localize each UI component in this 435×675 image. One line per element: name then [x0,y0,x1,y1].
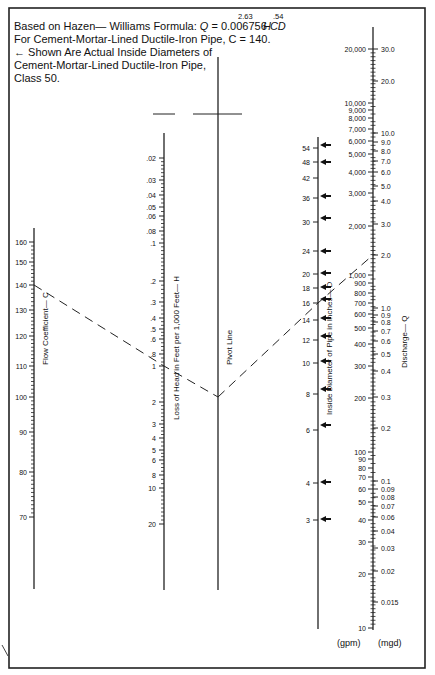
q-mgd-tick-label: 20.0 [381,78,395,85]
q-gpm-tick-label: 80 [358,465,366,472]
h-tick-label: 10 [148,485,156,492]
c-tick-label: 150 [15,259,27,266]
c-tick-label: 130 [15,307,27,314]
arrow-left-icon [320,270,331,276]
h-axis-title: Loss of Head in Feet per 1,000 Feet— H [172,276,181,420]
q-mgd-tick-label: 0.02 [381,568,395,575]
h-tick-label: 5 [152,447,156,454]
q-gpm-tick-label: 60 [358,486,366,493]
q-mgd-tick-label: 0.4 [381,368,391,375]
q-mgd-tick-label: 3.0 [381,221,391,228]
q-mgd-tick-label: 0.06 [381,514,395,521]
q-gpm-tick-label: 600 [354,311,366,318]
d-tick-label: 6 [306,427,310,434]
example-dashed-line-c-to-pivot [34,285,218,397]
formula-line: Based on Hazen— Williams Formula: Q = 0.… [14,20,286,33]
q-mgd-tick-label: 0.015 [381,599,399,606]
q-mgd-tick-label: 0.1 [381,478,391,485]
q-mgd-tick-label: 0.04 [381,528,395,535]
c-axis-title: Flow Coefficient— C [41,292,50,365]
c-tick-label: 90 [19,429,27,436]
q-mgd-tick-label: 2.0 [381,252,391,259]
h-tick-label: .4 [150,315,156,322]
q-gpm-tick-label: 2,000 [348,223,366,230]
q-gpm-tick-label: 900 [354,280,366,287]
q-mgd-tick-label: 4.0 [381,198,391,205]
q-gpm-tick-label: 7,000 [348,126,366,133]
corner-mark [2,645,8,656]
h-tick-label: .04 [146,192,156,199]
mgd-unit-label: (mgd) [378,637,402,650]
pivot-line-title: Pivot Line [225,330,234,365]
q-gpm-tick-label: 200 [354,395,366,402]
h-tick-label: 6 [152,457,156,464]
h-tick-label: 3 [152,421,156,428]
q-mgd-tick-label: 6.0 [381,169,391,176]
q-gpm-tick-label: 70 [358,474,366,481]
q-gpm-tick-label: 30 [358,539,366,546]
d-tick-label: 48 [302,159,310,166]
d-tick-label: 3 [306,517,310,524]
formula-cd: CD [270,20,286,32]
arrow-left-icon [320,215,331,221]
arrow-left-icon [320,159,331,165]
q-gpm-tick-label: 4,000 [348,169,366,176]
h-tick-label: .08 [146,228,156,235]
h-tick-label: .05 [146,204,156,211]
d-tick-label: 12 [302,337,310,344]
q-mgd-tick-label: 10.0 [381,130,395,137]
c-tick-label: 140 [15,282,27,289]
q-mgd-tick-label: 0.08 [381,494,395,501]
h-tick-label: 1 [152,363,156,370]
d-tick-label: 16 [302,300,310,307]
q-gpm-tick-label: 1,000 [348,272,366,279]
q-mgd-tick-label: 0.09 [381,486,395,493]
d-tick-label: 54 [302,145,310,152]
header-line-5: Class 50. [14,72,60,85]
d-tick-label: 36 [302,195,310,202]
gpm-unit-label: (gpm) [337,637,361,650]
q-mgd-tick-label: 0.6 [381,338,391,345]
q-gpm-tick-label: 100 [354,449,366,456]
arrow-left-icon [320,422,331,428]
h-tick-label: 4 [152,435,156,442]
q-gpm-tick-label: 5,000 [348,151,366,158]
arrow-left-icon [320,479,331,485]
header-line-4: Cement-Mortar-Lined Ductile-Iron Pipe, [14,59,206,72]
formula-h: H [263,20,271,33]
q-mgd-tick-label: 0.5 [381,351,391,358]
h-tick-label: .1 [150,240,156,247]
h-tick-label: .2 [150,278,156,285]
arrow-left-icon [320,248,331,254]
c-tick-label: 70 [19,514,27,521]
d-axis-title: Inside Diameter of Pipe in Inches— D [325,282,334,415]
q-gpm-tick-label: 10 [358,625,366,632]
q-gpm-tick-label: 6,000 [348,138,366,145]
q-mgd-tick-label: 0.9 [381,312,391,319]
h-tick-label: .3 [150,299,156,306]
q-gpm-tick-label: 9,000 [348,107,366,114]
q-gpm-tick-label: 500 [354,325,366,332]
arrow-left-icon [320,193,331,199]
q-gpm-tick-label: 700 [354,300,366,307]
d-tick-label: 14 [302,317,310,324]
q-gpm-tick-label: 90 [358,456,366,463]
c-tick-label: 110 [16,363,27,370]
header-line-3: ← Shown Are Actual Inside Diameters of [14,46,212,59]
h-tick-label: .02 [146,155,156,162]
q-gpm-tick-label: 3,000 [348,190,366,197]
c-tick-label: 120 [15,333,27,340]
q-mgd-tick-label: 0.03 [381,545,395,552]
q-gpm-tick-label: 20 [358,571,366,578]
q-mgd-tick-label: 9.0 [381,139,391,146]
c-tick-label: 160 [15,239,27,246]
d-tick-label: 24 [302,248,310,255]
q-mgd-tick-label: 0.7 [381,328,391,335]
q-mgd-tick-label: 0.8 [381,319,391,326]
q-mgd-tick-label: 0.3 [381,394,391,401]
q-gpm-tick-label: 400 [354,341,366,348]
c-tick-label: 80 [19,469,27,476]
q-mgd-tick-label: 0.2 [381,425,391,432]
q-gpm-tick-label: 300 [354,363,366,370]
header-line-2: For Cement-Mortar-Lined Ductile-Iron Pip… [14,33,270,46]
